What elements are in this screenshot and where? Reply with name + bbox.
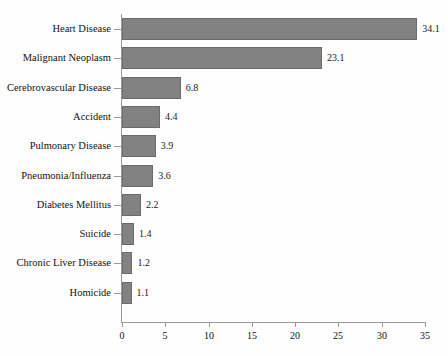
bar-homicide[interactable]: [122, 282, 132, 304]
x-axis-tick-mark: [122, 322, 123, 327]
x-axis-line: [121, 322, 426, 323]
bar-value-label: 3.6: [158, 171, 171, 181]
bar-value-label: 4.4: [165, 112, 178, 122]
bar-accident[interactable]: [122, 106, 160, 128]
category-label-text: Suicide: [80, 229, 112, 240]
category-label-text: Malignant Neoplasm: [23, 53, 111, 64]
x-axis-tick-label: 5: [163, 331, 168, 341]
category-label-heart-disease: Heart Disease: [0, 18, 121, 40]
x-axis-tick-label: 0: [120, 331, 125, 341]
x-axis-tick-mark: [165, 322, 166, 327]
bar-chronic-liver-disease[interactable]: [122, 252, 132, 274]
category-tick-mark: [114, 234, 121, 235]
category-tick-mark: [114, 205, 121, 206]
category-tick-mark: [114, 293, 121, 294]
bar-pneumonia-influenza[interactable]: [122, 165, 153, 187]
x-axis-tick-mark: [425, 322, 426, 327]
bar-diabetes-mellitus[interactable]: [122, 194, 141, 216]
category-label-pulmonary-disease: Pulmonary Disease: [0, 135, 121, 157]
x-axis-tick-label: 25: [333, 331, 343, 341]
bar-value-label: 2.2: [146, 200, 159, 210]
x-axis-tick-mark: [209, 322, 210, 327]
x-axis-tick-mark: [382, 322, 383, 327]
bar-row: 4.4: [122, 106, 448, 128]
category-tick-mark: [114, 263, 121, 264]
bar-cerebrovascular-disease[interactable]: [122, 77, 181, 99]
category-tick-mark: [114, 176, 121, 177]
category-label-malignant-neoplasm: Malignant Neoplasm: [0, 47, 121, 69]
category-label-pneumonia-influenza: Pneumonia/Influenza: [0, 165, 121, 187]
category-label-text: Accident: [73, 112, 111, 123]
x-axis-tick-mark: [295, 322, 296, 327]
category-tick-mark: [114, 146, 121, 147]
x-axis-tick-label: 35: [420, 331, 430, 341]
bar-value-label: 1.4: [139, 229, 152, 239]
x-axis-tick-mark: [252, 322, 253, 327]
bar-row: 2.2: [122, 194, 448, 216]
bar-value-label: 1.2: [137, 258, 150, 268]
category-tick-mark: [114, 117, 121, 118]
category-tick-mark: [114, 29, 121, 30]
bar-malignant-neoplasm[interactable]: [122, 47, 322, 69]
category-tick-mark: [114, 58, 121, 59]
bar-row: 34.1: [122, 18, 448, 40]
category-label-text: Diabetes Mellitus: [37, 200, 111, 211]
x-axis-tick-label: 30: [377, 331, 387, 341]
category-label-text: Pneumonia/Influenza: [21, 170, 111, 181]
category-tick-mark: [114, 88, 121, 89]
category-label-diabetes-mellitus: Diabetes Mellitus: [0, 194, 121, 216]
bar-value-label: 3.9: [161, 141, 174, 151]
x-axis-tick-label: 20: [290, 331, 300, 341]
category-label-text: Chronic Liver Disease: [17, 258, 111, 269]
category-label-accident: Accident: [0, 106, 121, 128]
bar-row: 3.9: [122, 135, 448, 157]
category-label-text: Heart Disease: [52, 24, 111, 35]
bar-value-label: 1.1: [137, 288, 150, 298]
category-label-chronic-liver-disease: Chronic Liver Disease: [0, 252, 121, 274]
category-label-cerebrovascular-disease: Cerebrovascular Disease: [0, 77, 121, 99]
bar-value-label: 23.1: [327, 53, 345, 63]
x-axis-tick-label: 15: [247, 331, 257, 341]
bar-chart: 34.123.16.84.43.93.62.21.41.21.1 Heart D…: [0, 0, 448, 356]
bar-row: 1.1: [122, 282, 448, 304]
bar-row: 3.6: [122, 165, 448, 187]
category-label-suicide: Suicide: [0, 223, 121, 245]
bar-value-label: 34.1: [422, 24, 440, 34]
category-label-text: Pulmonary Disease: [30, 141, 111, 152]
bar-suicide[interactable]: [122, 223, 134, 245]
category-label-homicide: Homicide: [0, 282, 121, 304]
bar-row: 6.8: [122, 77, 448, 99]
bar-row: 23.1: [122, 47, 448, 69]
x-axis-tick-mark: [338, 322, 339, 327]
bar-heart-disease[interactable]: [122, 18, 417, 40]
category-label-text: Cerebrovascular Disease: [7, 82, 111, 93]
bar-value-label: 6.8: [186, 83, 199, 93]
bar-row: 1.4: [122, 223, 448, 245]
bar-row: 1.2: [122, 252, 448, 274]
category-label-text: Homicide: [70, 287, 111, 298]
x-axis-tick-label: 10: [204, 331, 214, 341]
bar-pulmonary-disease[interactable]: [122, 135, 156, 157]
